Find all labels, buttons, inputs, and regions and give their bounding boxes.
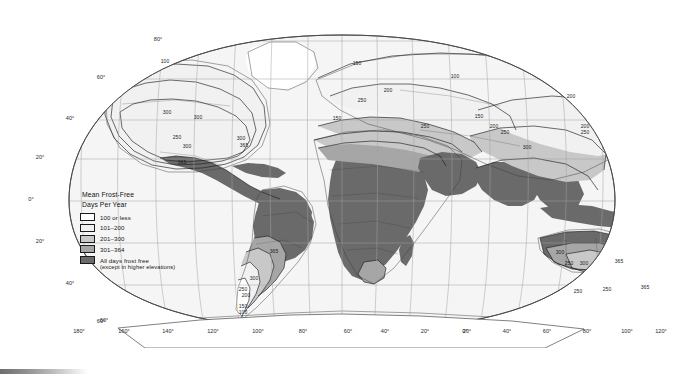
contour-value-label: 150 [475,113,484,119]
contour-value-label: 300 [183,143,192,149]
zone-201-300-japan [604,114,630,142]
latitude-label: 40° [66,280,74,286]
longitude-label: 60° [543,328,551,334]
legend-swatch [80,235,95,243]
legend-swatch [80,256,95,264]
contour-value-label: 200 [567,93,576,99]
legend-title: Mean Frost-Free Days Per Year [80,190,202,210]
map-legend: Mean Frost-Free Days Per Year 100 or les… [80,190,202,274]
contour-value-label: 365 [615,258,624,264]
longitude-label: 100° [252,328,264,334]
contour-value-label: 300 [523,144,532,150]
contour-value-label: 250 [565,260,574,266]
longitude-label-extra: 60° [100,317,108,323]
legend-entry: 100 or less [80,213,202,221]
latitude-label: 0° [28,196,33,202]
legend-entry: 101–200 [80,224,202,232]
contour-value-label: 150 [333,115,342,121]
contour-value-label: 250 [173,134,182,140]
world-map-figure: 80°60°40°20°0°20°40°60° 180°160°140°120°… [0,0,684,348]
legend-entry-list: 100 or less101–200201–300301–364All days… [80,213,202,271]
contour-value-label: 200 [384,87,393,93]
longitude-label: 120° [655,328,667,334]
longitude-label: 40° [381,328,389,334]
contour-value-label: 365 [178,159,187,165]
longitude-label: 120° [207,328,219,334]
longitude-label: 60° [344,328,352,334]
legend-swatch [80,224,95,232]
longitude-label: 20° [463,328,471,334]
map-screenshot: 80°60°40°20°0°20°40°60° 180°160°140°120°… [0,0,684,388]
contour-value-label: 100 [161,58,170,64]
longitude-label: 40° [503,328,511,334]
contour-value-label: 365 [641,284,650,290]
contour-value-label: 300 [556,249,565,255]
legend-swatch [80,213,95,221]
longitude-label: 80° [583,328,591,334]
contour-value-label: 150 [353,60,362,66]
latitude-label: 20° [36,154,44,160]
legend-swatch [80,245,95,253]
legend-entry-label: All days frost free(except in higher ele… [100,256,175,271]
contour-value-label: 200 [490,123,499,129]
longitude-label: 140° [162,328,174,334]
legend-entry-label: 101–200 [100,224,124,232]
map-svg: 80°60°40°20°0°20°40°60° 180°160°140°120°… [0,0,684,348]
contour-value-label: 300 [163,109,172,115]
longitude-label: 160° [118,328,130,334]
legend-entry-label: 201–300 [100,235,124,243]
legend-entry-label: 100 or less [100,213,131,221]
contour-250-new-zealand [630,268,658,298]
contour-value-label: 250 [603,286,612,292]
legend-entry: 301–364 [80,245,202,253]
contour-value-label: 300 [250,275,259,281]
contour-value-label: 300 [580,260,589,266]
longitude-label: 180° [73,328,85,334]
legend-entry: 201–300 [80,235,202,243]
legend-entry-label: 301–364 [100,245,124,253]
contour-value-label: 250 [574,288,583,294]
legend-title-line2: Days Per Year [82,200,202,210]
longitude-label: 20° [421,328,429,334]
contour-value-label: 100 [239,309,248,315]
legend-entry: All days frost free(except in higher ele… [80,256,202,271]
contour-value-label: 250 [501,129,510,135]
contour-value-label: 250 [581,129,590,135]
contour-value-label: 100 [451,73,460,79]
contour-value-label: 200 [242,292,251,298]
latitude-label: 20° [36,238,44,244]
contour-value-label: 365 [270,248,279,254]
latitude-label: 40° [66,115,74,121]
legend-entry-sublabel: (except in higher elevations) [100,264,175,271]
contour-value-label: 250 [358,97,367,103]
bottom-gradient-bar [0,369,88,374]
contour-value-label: 300 [237,135,246,141]
legend-title-line1: Mean Frost-Free [82,190,202,200]
contour-value-label: 365 [240,142,249,148]
contour-value-label: 300 [194,114,203,120]
longitude-label: 100° [621,328,633,334]
zone-201-300-new-zealand [630,268,658,298]
latitude-label: 80° [154,36,162,42]
latitude-label: 60° [97,74,105,80]
longitude-label: 80° [299,328,307,334]
contour-value-label: 250 [421,123,430,129]
